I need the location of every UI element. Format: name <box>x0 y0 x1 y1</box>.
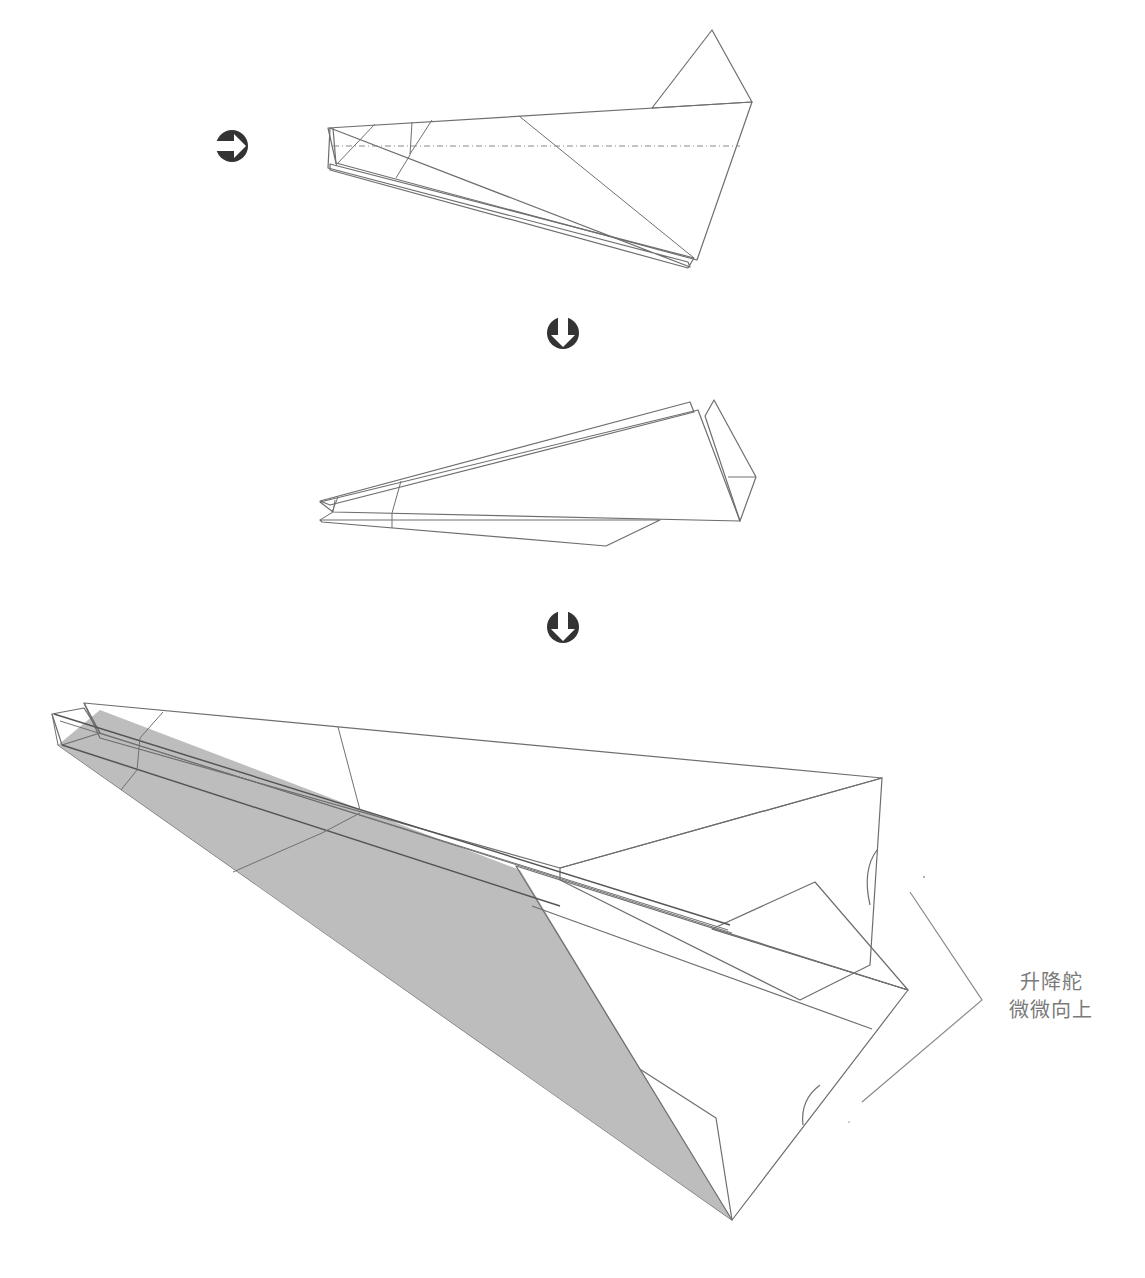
origami-diagram <box>0 0 1145 1278</box>
step-2-figure <box>320 400 756 546</box>
annotation-line-2: 微微向上 <box>996 996 1106 1024</box>
step-1-figure <box>328 30 752 268</box>
annotation-line-1: 升降舵 <box>996 968 1106 996</box>
circled-down-arrow-icon <box>547 317 579 349</box>
circled-down-arrow-icon <box>547 611 579 643</box>
circled-right-arrow-icon <box>216 130 248 162</box>
step-3-figure <box>52 703 908 1220</box>
callout-bracket <box>862 892 982 1102</box>
elevator-annotation: 升降舵 微微向上 <box>996 968 1106 1024</box>
